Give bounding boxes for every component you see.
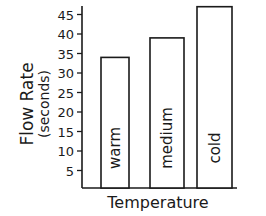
bar-label: cold [206,132,224,163]
y-axis-ticks: 51015202530354045 [57,8,82,179]
bars: warmmediumcold [101,7,232,188]
y-axis-label-units: (seconds) [36,70,52,138]
y-tick-label: 5 [66,164,74,179]
x-axis-label: Temperature [106,193,208,212]
bar-cold: cold [197,7,232,188]
y-tick-label: 35 [57,47,74,62]
y-tick-label: 45 [57,8,74,23]
bar-label: medium [158,107,176,169]
y-tick-label: 30 [57,66,74,81]
y-tick-label: 25 [57,86,74,101]
y-tick-label: 20 [57,105,74,120]
y-tick-label: 15 [57,125,74,140]
chart-canvas: warmmediumcold 51015202530354045 Flow Ra… [0,0,266,216]
y-tick-label: 10 [57,144,74,159]
bar-label: warm [106,127,124,169]
bar-warm: warm [101,57,129,188]
bar-chart: warmmediumcold 51015202530354045 Flow Ra… [0,0,266,216]
bar-medium: medium [150,38,184,188]
y-tick-label: 40 [57,27,74,42]
y-axis-label: Flow Rate [17,62,37,145]
